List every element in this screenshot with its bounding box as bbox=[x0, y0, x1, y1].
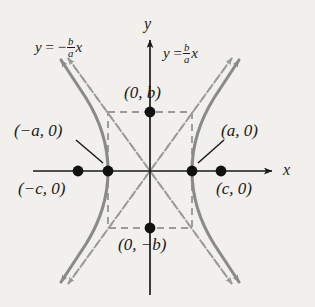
asymptote-left-equals: = bbox=[45, 39, 53, 55]
leader-line-vertex-left bbox=[76, 140, 103, 163]
y-axis-label: y bbox=[144, 16, 151, 32]
label-co-vertex-top: (0, b) bbox=[124, 84, 161, 101]
x-axis-label: x bbox=[283, 162, 290, 178]
label-focus-right: (c, 0) bbox=[216, 180, 252, 197]
asymptote-right-variable: x bbox=[191, 45, 198, 61]
asymptote-right-denominator: a bbox=[183, 54, 190, 65]
point-vertex-left bbox=[103, 166, 114, 177]
asymptote-right-lead: y bbox=[163, 45, 170, 61]
label-co-vertex-bottom: (0, −b) bbox=[118, 236, 166, 253]
point-focus-right bbox=[216, 166, 227, 177]
leader-line-vertex-right bbox=[198, 140, 224, 163]
asymptote-right-equals: = bbox=[173, 45, 181, 61]
asymptote-left-variable: x bbox=[76, 39, 83, 55]
label-focus-left: (−c, 0) bbox=[18, 180, 65, 197]
point-co-vertex-bottom bbox=[145, 223, 156, 234]
asymptote-left-denominator: a bbox=[67, 48, 74, 59]
label-vertex-left: (−a, 0) bbox=[14, 122, 62, 139]
asymptote-left-lead: y bbox=[35, 39, 42, 55]
point-vertex-right bbox=[187, 166, 198, 177]
asymptote-left-fraction: ba bbox=[67, 36, 74, 59]
point-focus-left bbox=[73, 166, 84, 177]
label-vertex-right: (a, 0) bbox=[221, 122, 258, 139]
point-co-vertex-top bbox=[145, 107, 156, 118]
hyperbola-figure: y = −bax y =bax y x (0, b) (0, −b) (−a, … bbox=[0, 0, 315, 307]
asymptote-label-right: y =bax bbox=[163, 42, 198, 65]
asymptote-right-fraction: ba bbox=[183, 42, 190, 65]
asymptote-label-left: y = −bax bbox=[35, 36, 82, 59]
asymptote-left-sign: − bbox=[58, 39, 66, 55]
